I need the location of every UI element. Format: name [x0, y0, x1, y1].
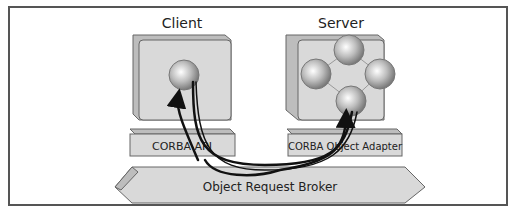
server-object-icon — [365, 59, 395, 89]
corba-diagram: Client Server CORBA API CORBA Object Ada… — [0, 0, 521, 217]
client-title: Client — [162, 15, 203, 31]
client-object-icon — [169, 60, 199, 90]
server-object-icon — [301, 59, 331, 89]
server-object-icon — [334, 35, 364, 65]
server-title: Server — [318, 15, 364, 31]
orb-label: Object Request Broker — [203, 180, 338, 194]
